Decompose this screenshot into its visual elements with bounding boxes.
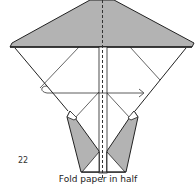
right-lower-crease [106, 92, 130, 118]
left-lower-crease [75, 92, 99, 118]
step-number: 22 [18, 156, 28, 165]
right-outer-edge [135, 48, 186, 111]
origami-diagram [0, 0, 196, 184]
left-outer-edge [15, 48, 68, 111]
fold-arrow [42, 86, 143, 93]
left-inner-crease [40, 47, 79, 88]
right-inner-crease [130, 47, 160, 80]
step-caption: Fold paper in half [0, 174, 196, 184]
